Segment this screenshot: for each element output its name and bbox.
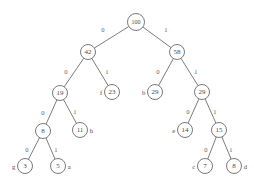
node-value: 29 [152,88,160,96]
node-value: 29 [199,88,207,96]
edge-label-0: 0 [204,146,208,153]
tree-node-n23: 23f [100,85,119,100]
edge-label-1: 1 [229,146,232,153]
tree-node-n5: 5a [51,159,71,174]
edge-label-0: 0 [41,109,45,116]
tree-node-n100: 100 [128,14,145,31]
leaf-symbol-h: h [90,127,94,134]
tree-node-n14: 14e [172,123,192,138]
tree-edge [159,59,174,86]
edge-label-1: 1 [213,108,216,115]
tree-edge [28,138,39,160]
leaf-symbol-g: g [12,163,16,170]
tree-node-n7: 7c [192,159,212,174]
edge-label-1: 1 [54,146,57,153]
node-value: 5 [56,162,60,170]
tree-node-n11: 11h [73,123,94,138]
node-value: 3 [23,162,27,170]
edge-label-1: 1 [73,108,76,115]
tree-canvas: 01010101010101 10042581923f29b29811h14e1… [0,0,254,183]
tree-node-n42: 42 [81,45,96,60]
tree-node-n3: 3g [12,159,32,174]
edge-label-1: 1 [105,68,108,75]
edge-label-0: 0 [64,68,68,75]
edge-label-1: 1 [194,68,197,75]
node-value: 14 [182,126,190,134]
tree-edge [208,137,217,159]
edge-label-0: 0 [101,26,105,33]
edge-label-0: 0 [156,68,160,75]
tree-node-n15: 15 [212,123,227,138]
leaf-symbol-f: f [100,89,103,96]
tree-edge [94,27,128,49]
node-value: 19 [57,89,65,97]
node-value: 42 [85,48,93,56]
edge-label-0: 0 [186,108,190,115]
tree-edge [188,99,199,123]
tree-node-n8a: 8 [36,124,51,139]
tree-node-n58: 58 [170,45,185,60]
tree-node-n8d: 8d [227,159,248,174]
leaf-symbol-a: a [68,163,71,170]
node-value: 7 [203,162,207,170]
nodes-layer: 10042581923f29b29811h14e153g5a7c8d [12,14,248,174]
node-value: 100 [132,19,141,25]
tree-node-n19: 19 [53,86,68,101]
leaf-symbol-d: d [244,163,248,170]
edge-label-1: 1 [164,26,167,33]
leaf-symbol-e: e [172,127,175,134]
node-value: 8 [232,162,236,170]
tree-edge [46,100,57,124]
node-value: 23 [109,88,117,96]
node-value: 8 [41,127,45,135]
edge-label-0: 0 [25,146,29,153]
tree-node-n29i: 29 [195,85,210,100]
leaf-symbol-c: c [192,163,195,170]
node-value: 58 [174,48,182,56]
tree-node-n29b: 29b [142,85,162,100]
node-value: 15 [216,126,224,134]
leaf-symbol-b: b [142,89,146,96]
node-value: 11 [77,126,84,134]
huffman-tree-figure: 01010101010101 10042581923f29b29811h14e1… [0,0,254,183]
